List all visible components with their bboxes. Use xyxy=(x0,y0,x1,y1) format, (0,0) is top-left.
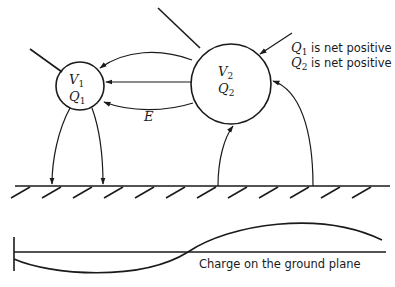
conductor-2: V2 Q2 xyxy=(158,8,271,124)
ground-charge-plot: Charge on the ground plane xyxy=(14,223,386,273)
note-q1: Q1 is net positive xyxy=(291,40,392,57)
conductor-2-voltage: V2 xyxy=(218,64,233,81)
incoming-field-arrow xyxy=(260,33,292,54)
field-label-e: E xyxy=(143,109,154,124)
conductor-1-lead-line xyxy=(30,49,62,72)
capacitance-diagram: V1 Q1 V2 Q2 E Q1 is net positive Q2 is n… xyxy=(0,0,395,287)
field-line-ground-c2-right xyxy=(273,81,313,186)
conductor-1-voltage: V1 xyxy=(69,72,84,89)
conductor-1: V1 Q1 xyxy=(30,49,104,110)
ground-plane xyxy=(11,186,390,198)
note-q2: Q2 is net positive xyxy=(291,55,392,72)
field-lines-2-to-1: E xyxy=(100,52,193,124)
field-line-c1-ground-left xyxy=(52,108,70,184)
conductor-2-circle xyxy=(191,44,271,124)
field-line-c1-ground-right xyxy=(92,108,103,184)
charge-notes: Q1 is net positive Q2 is net positive xyxy=(291,40,392,72)
conductor-2-charge: Q2 xyxy=(218,81,234,98)
field-line-top-arrow xyxy=(100,52,192,68)
ground-hatching xyxy=(11,187,371,198)
ground-charge-caption: Charge on the ground plane xyxy=(199,257,361,271)
conductor-2-lead-line xyxy=(158,8,200,48)
field-line-ground-c2-bottom xyxy=(218,126,233,186)
conductor-1-charge: Q1 xyxy=(69,89,85,106)
